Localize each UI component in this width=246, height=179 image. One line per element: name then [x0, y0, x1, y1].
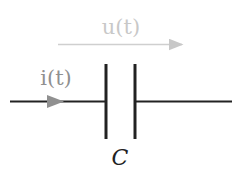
current-arrow-icon [47, 95, 64, 108]
current-label: i(t) [40, 66, 72, 90]
component-label: C [112, 145, 129, 170]
capacitor-diagram: u(t) i(t) C [0, 0, 246, 179]
voltage-label: u(t) [102, 15, 140, 39]
